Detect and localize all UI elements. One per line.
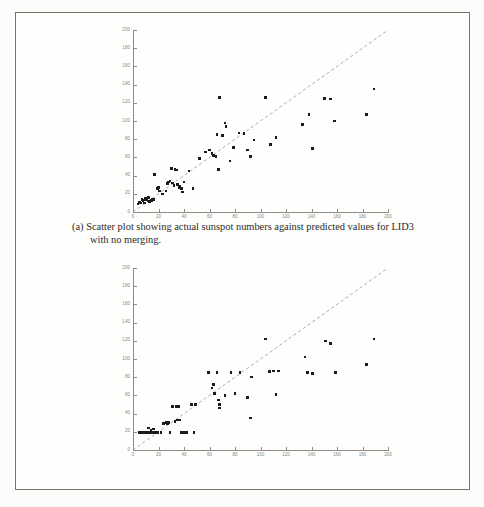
x-axis-tick bbox=[312, 447, 313, 450]
scatter-plot-a: 0204060801001201401601802000204060801001… bbox=[16, 13, 471, 218]
y-axis-tick-label: 100 bbox=[109, 119, 130, 124]
x-axis-tick-label: 100 bbox=[249, 453, 273, 458]
data-point-marker bbox=[224, 122, 227, 125]
data-point-marker bbox=[329, 98, 332, 101]
data-point-marker bbox=[365, 363, 368, 366]
x-axis-tick-label: 120 bbox=[274, 453, 298, 458]
data-point-marker bbox=[275, 136, 278, 139]
data-point-marker bbox=[183, 181, 186, 184]
y-axis-tick-label: 160 bbox=[109, 302, 130, 307]
y-axis-tick-label: 100 bbox=[109, 357, 130, 362]
x-axis-tick-label: 20 bbox=[147, 215, 171, 220]
data-point-marker bbox=[160, 431, 163, 434]
x-axis-tick bbox=[235, 447, 236, 450]
data-point-marker bbox=[218, 96, 221, 99]
x-axis-tick bbox=[261, 209, 262, 212]
x-axis-tick bbox=[388, 209, 389, 212]
data-point-marker bbox=[304, 356, 307, 359]
data-point-marker bbox=[373, 338, 376, 341]
y-axis-tick-label: 20 bbox=[109, 191, 130, 196]
x-axis-tick bbox=[184, 209, 185, 212]
y-axis-tick-label: 20 bbox=[109, 429, 130, 434]
y-axis-tick-label: 180 bbox=[109, 284, 130, 289]
data-point-marker bbox=[216, 133, 219, 136]
x-axis-tick bbox=[261, 447, 262, 450]
data-point-marker bbox=[188, 170, 191, 173]
data-point-marker bbox=[246, 396, 249, 399]
y-axis-tick-label: 200 bbox=[109, 28, 130, 33]
y-axis-tick bbox=[134, 157, 137, 158]
data-point-marker bbox=[329, 342, 332, 345]
y-axis-tick-label: 80 bbox=[109, 375, 130, 380]
y-axis-tick bbox=[134, 194, 137, 195]
y-axis-tick-label: 180 bbox=[109, 46, 130, 51]
data-point-marker bbox=[152, 428, 155, 431]
data-point-marker bbox=[365, 113, 368, 116]
data-point-marker bbox=[324, 340, 327, 343]
data-point-marker bbox=[224, 394, 227, 397]
y-axis-tick bbox=[134, 268, 137, 269]
data-point-marker bbox=[173, 184, 176, 187]
x-axis-tick bbox=[337, 447, 338, 450]
data-point-marker bbox=[216, 371, 219, 374]
data-point-marker bbox=[230, 371, 233, 374]
data-point-marker bbox=[308, 113, 311, 116]
caption-a-tag: (a) bbox=[72, 221, 84, 232]
data-point-marker bbox=[246, 149, 249, 152]
y-axis-tick bbox=[134, 48, 137, 49]
data-point-marker bbox=[167, 421, 170, 424]
data-point-marker bbox=[234, 392, 237, 395]
x-axis-tick bbox=[184, 447, 185, 450]
x-axis-tick bbox=[133, 447, 134, 450]
data-point-marker bbox=[264, 338, 267, 341]
data-point-marker bbox=[152, 198, 155, 201]
y-axis-tick-label: 140 bbox=[109, 320, 130, 325]
page-background: 0204060801001201401601802000204060801001… bbox=[0, 0, 484, 507]
data-point-marker bbox=[211, 387, 214, 390]
y-axis-tick bbox=[134, 85, 137, 86]
x-axis-line bbox=[133, 450, 389, 451]
x-axis-tick-label: 160 bbox=[325, 453, 349, 458]
data-point-marker bbox=[143, 202, 146, 205]
x-axis-tick-label: 120 bbox=[274, 215, 298, 220]
y-axis-tick bbox=[134, 103, 137, 104]
y-axis-tick-label: 0 bbox=[109, 448, 130, 453]
y-axis-tick-label: 120 bbox=[109, 338, 130, 343]
y-axis-tick-label: 0 bbox=[109, 210, 130, 215]
y-axis-tick bbox=[134, 30, 137, 31]
x-axis-tick bbox=[337, 209, 338, 212]
data-point-marker bbox=[175, 169, 178, 172]
x-axis-tick bbox=[363, 447, 364, 450]
y-axis-tick bbox=[134, 212, 137, 213]
x-axis-tick-label: 20 bbox=[147, 453, 171, 458]
data-point-marker bbox=[225, 125, 228, 128]
x-axis-tick bbox=[286, 209, 287, 212]
y-axis-tick bbox=[134, 286, 137, 287]
y-axis-tick bbox=[134, 304, 137, 305]
y-axis-tick bbox=[134, 395, 137, 396]
figure-b: 0204060801001201401601802000204060801001… bbox=[16, 251, 471, 456]
data-point-marker bbox=[334, 371, 337, 374]
data-point-marker bbox=[212, 383, 215, 386]
y-axis-tick bbox=[134, 432, 137, 433]
data-point-marker bbox=[232, 146, 235, 149]
data-point-marker bbox=[221, 134, 224, 137]
x-axis-tick-label: 100 bbox=[249, 215, 273, 220]
data-point-marker bbox=[169, 431, 172, 434]
figure-a: 0204060801001201401601802000204060801001… bbox=[16, 13, 471, 218]
data-point-marker bbox=[239, 371, 242, 374]
data-point-marker bbox=[156, 431, 159, 434]
caption-a-line1: Scatter plot showing actual sunspot numb… bbox=[86, 221, 304, 232]
data-point-marker bbox=[217, 168, 220, 171]
x-axis-tick bbox=[210, 447, 211, 450]
y-axis-tick bbox=[134, 139, 137, 140]
data-point-marker bbox=[253, 139, 256, 142]
x-axis-tick-label: 180 bbox=[351, 453, 375, 458]
x-axis-tick bbox=[363, 209, 364, 212]
data-point-marker bbox=[192, 187, 195, 190]
x-axis-tick-label: 80 bbox=[223, 453, 247, 458]
data-point-marker bbox=[238, 132, 241, 135]
data-point-marker bbox=[170, 167, 173, 170]
y-axis-tick-label: 60 bbox=[109, 393, 130, 398]
x-axis-tick bbox=[159, 209, 160, 212]
